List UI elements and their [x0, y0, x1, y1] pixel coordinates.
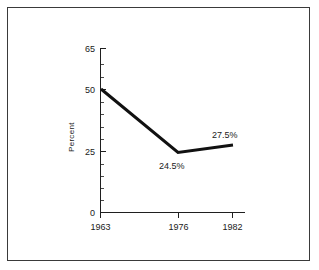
chart-page: 65 50 25 0 Percent 1963 1976 1982 24.5% … [0, 0, 319, 270]
line-chart: 65 50 25 0 Percent 1963 1976 1982 24.5% … [0, 0, 319, 270]
y-axis-title: Percent [67, 122, 76, 152]
data-label-1982: 27.5% [212, 130, 238, 140]
data-label-1976: 24.5% [159, 161, 185, 171]
y-tick-label-50: 50 [85, 85, 95, 95]
data-series-line [101, 89, 233, 153]
y-tick-label-65: 65 [85, 44, 95, 54]
x-tick-label-1963: 1963 [90, 222, 110, 232]
y-tick-label-25: 25 [85, 147, 95, 157]
x-tick-label-1976: 1976 [168, 222, 188, 232]
x-tick-label-1982: 1982 [222, 222, 242, 232]
y-tick-label-0: 0 [90, 208, 95, 218]
